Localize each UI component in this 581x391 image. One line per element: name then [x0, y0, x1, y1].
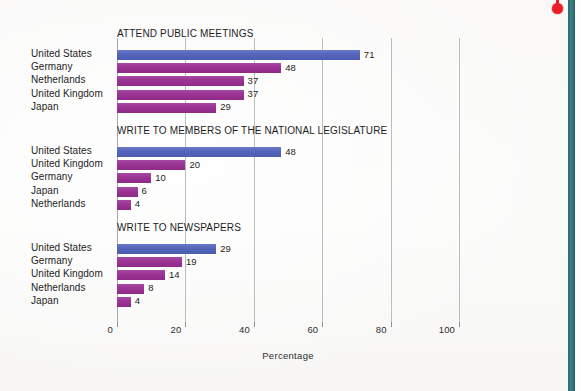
bar — [117, 244, 216, 254]
bar-value-label: 4 — [135, 198, 140, 209]
bar — [117, 257, 182, 267]
x-tick-label: 0 — [81, 324, 113, 335]
gridline-80 — [391, 38, 392, 322]
bar — [117, 297, 131, 307]
category-label: Germany — [31, 255, 72, 266]
category-label: United Kingdom — [31, 268, 103, 279]
panel-title: WRITE TO NEWSPAPERS — [117, 222, 241, 233]
bar — [117, 103, 216, 113]
panel-title: ATTEND PUBLIC MEETINGS — [117, 28, 253, 39]
bar — [117, 147, 281, 157]
bar-value-label: 37 — [248, 88, 259, 99]
bar — [117, 270, 165, 280]
x-tick-40 — [254, 322, 255, 327]
bar — [117, 173, 151, 183]
bar-value-label: 37 — [248, 75, 259, 86]
bar-value-label: 14 — [169, 269, 180, 280]
bar-chart: ATTEND PUBLIC MEETINGSUnited States71Ger… — [0, 0, 581, 391]
bar-value-label: 48 — [285, 62, 296, 73]
bar — [117, 90, 244, 100]
bar-value-label: 29 — [220, 243, 231, 254]
category-label: United States — [31, 145, 92, 156]
bar — [117, 187, 138, 197]
x-tick-label: 80 — [355, 324, 387, 335]
bar — [117, 160, 185, 170]
category-label: United Kingdom — [31, 88, 103, 99]
bar — [117, 284, 144, 294]
x-tick-label: 60 — [286, 324, 318, 335]
x-tick-label: 100 — [423, 324, 455, 335]
category-label: United States — [31, 242, 92, 253]
x-axis-title: Percentage — [258, 350, 318, 361]
x-tick-0 — [117, 322, 118, 327]
x-tick-100 — [459, 322, 460, 327]
category-label: Japan — [31, 101, 59, 112]
bar-value-label: 20 — [189, 159, 200, 170]
bar-value-label: 48 — [285, 146, 296, 157]
bar-value-label: 29 — [220, 101, 231, 112]
gridline-100 — [459, 38, 460, 322]
category-label: Germany — [31, 61, 72, 72]
x-tick-20 — [185, 322, 186, 327]
bar-value-label: 6 — [142, 185, 147, 196]
bar — [117, 50, 360, 60]
bar — [117, 200, 131, 210]
x-tick-60 — [322, 322, 323, 327]
gridline-60 — [322, 38, 323, 322]
red-marker-dot — [552, 3, 563, 14]
page-edge-margin — [575, 0, 581, 391]
category-label: Japan — [31, 185, 59, 196]
category-label: Netherlands — [31, 198, 85, 209]
bar-value-label: 10 — [155, 172, 166, 183]
x-tick-label: 20 — [149, 324, 181, 335]
category-label: United States — [31, 48, 92, 59]
bar — [117, 76, 244, 86]
category-label: United Kingdom — [31, 158, 103, 169]
bar-value-label: 4 — [135, 295, 140, 306]
x-tick-label: 40 — [218, 324, 250, 335]
bar-value-label: 8 — [148, 282, 153, 293]
category-label: Netherlands — [31, 74, 85, 85]
page-edge-bar — [568, 0, 575, 391]
bar — [117, 63, 281, 73]
bar-value-label: 71 — [364, 49, 375, 60]
category-label: Japan — [31, 295, 59, 306]
category-label: Netherlands — [31, 282, 85, 293]
bar-value-label: 19 — [186, 256, 197, 267]
panel-title: WRITE TO MEMBERS OF THE NATIONAL LEGISLA… — [117, 125, 387, 136]
x-tick-80 — [391, 322, 392, 327]
category-label: Germany — [31, 171, 72, 182]
chart-page: ATTEND PUBLIC MEETINGSUnited States71Ger… — [0, 0, 581, 391]
